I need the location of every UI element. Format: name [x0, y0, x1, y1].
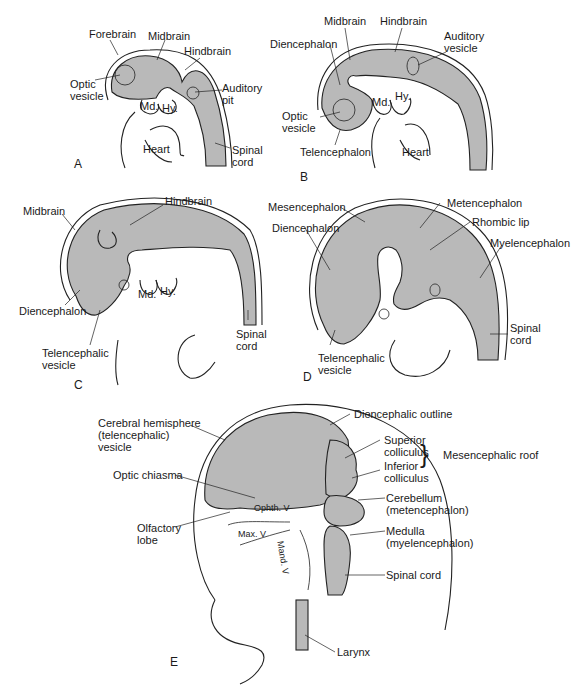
label-b-optic-vesicle: Optic vesicle [282, 110, 316, 134]
panel-letter-b: B [300, 170, 308, 184]
label-c-diencephalon: Diencephalon [19, 305, 86, 317]
panel-letter-a: A [74, 157, 82, 171]
label-b-hindbrain: Hindbrain [380, 15, 427, 27]
label-a-midbrain: Midbrain [148, 30, 190, 42]
label-c-midbrain: Midbrain [23, 205, 65, 217]
label-d-myelencephalon: Myelencephalon [490, 237, 570, 249]
label-b-telencephalon: Telencephalon [300, 146, 371, 158]
label-e-medulla: Medulla (myelencephalon) [386, 525, 473, 549]
label-e-ophth-v: Ophth. V [254, 502, 290, 514]
label-c-md: Md. [138, 288, 156, 300]
label-a-auditory-pit: Auditory pit [222, 82, 262, 106]
label-a-spinal-cord: Spinal cord [232, 144, 263, 168]
label-a-optic-vesicle: Optic vesicle [70, 78, 104, 102]
label-e-optic-chiasma: Optic chiasma [113, 469, 183, 481]
label-b-auditory-vesicle: Auditory vesicle [444, 30, 484, 54]
label-b-hy: Hy. [395, 90, 411, 102]
label-d-diencephalon: Diencephalon [272, 222, 339, 234]
label-c-hindbrain: Hindbrain [165, 195, 212, 207]
label-e-larynx: Larynx [337, 646, 370, 658]
label-e-cerebellum: Cerebellum (metencephalon) [386, 492, 469, 516]
label-a-hy: Hy. [162, 102, 178, 114]
label-b-midbrain: Midbrain [324, 15, 366, 27]
panel-letter-d: D [303, 370, 312, 384]
label-e-spinal-cord: Spinal cord [386, 569, 441, 581]
embryo-brain-development-figure [0, 0, 585, 686]
label-d-telencephalic-vesicle: Telencephalic vesicle [318, 352, 385, 376]
label-e-cerebral-hemisphere: Cerebral hemisphere (telencephalic) vesi… [98, 417, 201, 453]
label-d-spinal-cord: Spinal cord [510, 322, 541, 346]
label-d-mesencephalon: Mesencephalon [268, 201, 346, 213]
label-e-mesencephalic-roof: Mesencephalic roof [443, 449, 538, 461]
label-c-telencephalic-vesicle: Telencephalic vesicle [42, 347, 109, 371]
label-c-hy: Hy. [160, 285, 176, 297]
brace-icon: } [420, 434, 429, 474]
label-a-md: Md. [140, 100, 158, 112]
label-a-heart: Heart [143, 143, 170, 155]
label-a-hindbrain: Hindbrain [184, 45, 231, 57]
label-c-spinal-cord: Spinal cord [236, 328, 267, 352]
label-b-md: Md. [372, 96, 390, 108]
label-a-forebrain: Forebrain [89, 28, 136, 40]
label-e-olfactory-lobe: Olfactory lobe [137, 522, 181, 546]
label-b-heart: Heart [402, 146, 429, 158]
label-d-rhombic-lip: Rhombic lip [472, 216, 529, 228]
label-e-diencephalic-outline: Diencephalic outline [354, 408, 452, 420]
panel-letter-e: E [170, 655, 178, 669]
label-e-max-v: Max. V [238, 528, 266, 540]
label-d-metencephalon: Metencephalon [447, 197, 522, 209]
panel-letter-c: C [74, 378, 83, 392]
label-b-diencephalon: Diencephalon [270, 38, 337, 50]
